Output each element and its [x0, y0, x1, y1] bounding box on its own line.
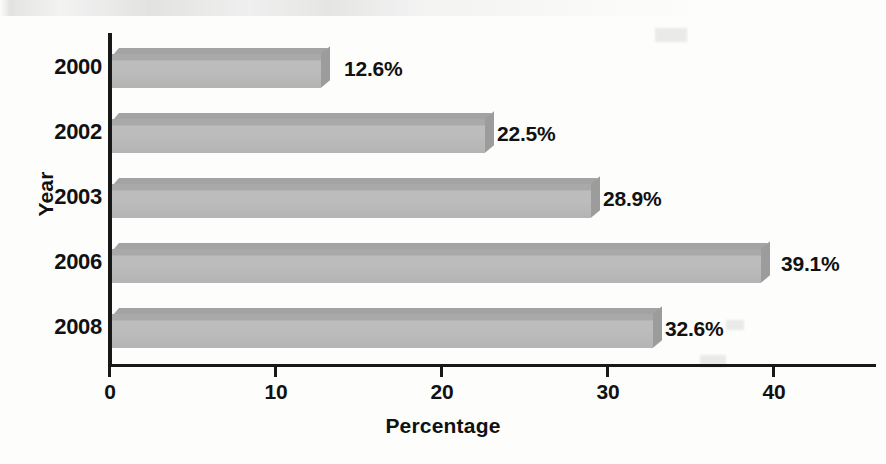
x-axis-tick-label: 40 — [744, 380, 804, 404]
bar-face — [112, 314, 653, 348]
y-axis-category-label: 2000 — [10, 54, 102, 80]
bar-chart-plot-area: 0 10 20 30 40 Percentage Year 2000 2002 … — [0, 0, 886, 464]
x-axis-line — [108, 364, 876, 367]
x-axis-tick-label: 20 — [412, 380, 472, 404]
x-axis-tick — [606, 367, 609, 377]
bar-value-label: 22.5% — [497, 122, 556, 146]
bar-face — [112, 184, 591, 218]
bar-2002 — [112, 119, 485, 153]
x-axis-tick — [772, 367, 775, 377]
x-axis-tick-label: 10 — [246, 380, 306, 404]
bar-face — [112, 54, 321, 88]
y-axis-category-label: 2006 — [10, 249, 102, 275]
bar-side-shadow — [653, 306, 662, 348]
bar-2000 — [112, 54, 321, 88]
x-axis-tick-label: 0 — [80, 380, 140, 404]
bar-2006 — [112, 249, 761, 283]
y-axis-category-label: 2003 — [10, 184, 102, 210]
bar-value-label: 28.9% — [603, 187, 662, 211]
bar-face — [112, 119, 485, 153]
bar-value-label: 32.6% — [665, 317, 724, 341]
bar-side-shadow — [321, 46, 330, 88]
x-axis-title: Percentage — [0, 414, 886, 438]
bar-2008 — [112, 314, 653, 348]
y-axis-category-label: 2002 — [10, 119, 102, 145]
bar-face — [112, 249, 761, 283]
bar-value-label: 39.1% — [781, 252, 840, 276]
y-axis-category-label: 2008 — [10, 314, 102, 340]
x-axis-tick — [440, 367, 443, 377]
bar-value-label: 12.6% — [344, 57, 403, 81]
bar-side-shadow — [485, 111, 494, 153]
bar-side-shadow — [761, 241, 770, 283]
bar-side-shadow — [591, 176, 600, 218]
x-axis-tick — [274, 367, 277, 377]
x-axis-tick-label: 30 — [578, 380, 638, 404]
chart-screenshot: 0 10 20 30 40 Percentage Year 2000 2002 … — [0, 0, 886, 464]
bar-2003 — [112, 184, 591, 218]
x-axis-tick — [108, 367, 111, 377]
